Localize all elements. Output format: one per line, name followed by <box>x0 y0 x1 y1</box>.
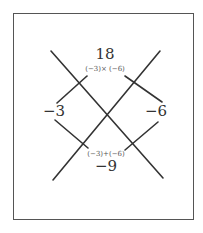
short-line-top-right <box>125 76 162 102</box>
top-value: 18 <box>95 47 114 62</box>
short-line-bottom-right <box>125 122 158 150</box>
short-line-bottom-left <box>55 120 88 148</box>
top-expression: (−3)× (−6) <box>85 66 125 73</box>
left-value: −3 <box>43 104 65 119</box>
bottom-value: −9 <box>95 159 117 174</box>
right-value: −6 <box>145 104 167 119</box>
x-diagram-lines <box>0 0 203 233</box>
short-line-top-left <box>57 76 87 103</box>
